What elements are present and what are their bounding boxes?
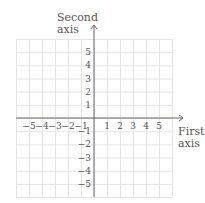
y-tick-label: −4	[77, 167, 91, 176]
y-tick-label: −2	[77, 140, 91, 149]
coordinate-plane	[0, 0, 205, 203]
y-tick-label: −1	[77, 127, 91, 136]
y-tick-label: 2	[77, 88, 91, 97]
y-tick-label: 3	[77, 75, 91, 84]
x-axis-label-line1: First	[178, 126, 204, 137]
x-axis-label-line2: axis	[178, 138, 200, 149]
y-tick-label: 4	[77, 61, 91, 70]
y-axis-label-line1: Second	[57, 12, 98, 23]
x-tick-label: 5	[151, 122, 167, 131]
y-tick-label: 5	[77, 48, 91, 57]
y-tick-label: −5	[77, 180, 91, 189]
y-tick-label: 1	[77, 101, 91, 110]
y-tick-label: −3	[77, 154, 91, 163]
y-axis-label-line2: axis	[57, 24, 79, 35]
